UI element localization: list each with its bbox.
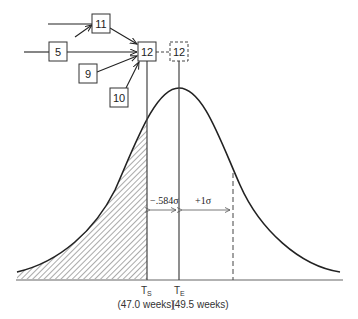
edge-10-to-12 — [126, 62, 139, 88]
shaded-probability-area — [17, 123, 147, 279]
node-12-label: 12 — [141, 46, 153, 58]
node-5: 5 — [49, 42, 67, 61]
te-value-label: (49.5 weeks) — [171, 299, 228, 310]
edge-9-to-12 — [97, 56, 137, 72]
node-12: 12 — [138, 42, 156, 61]
node-12-shifted-label: 12 — [173, 46, 185, 58]
edge-in-11-diag — [75, 25, 92, 37]
node-9-label: 9 — [85, 68, 91, 80]
edge-11-to-12 — [110, 28, 137, 44]
minus-sigma-label: −.584σ — [150, 195, 179, 206]
node-5-label: 5 — [55, 46, 61, 58]
ts-marker-label: TS — [141, 285, 152, 297]
node-9: 9 — [79, 64, 97, 83]
pert-normal-distribution-diagram: −.584σ +1σ 11 5 9 10 12 12 TS TE (47.0 w… — [0, 0, 358, 319]
ts-value-label: (47.0 weeks) — [117, 299, 174, 310]
node-10: 10 — [110, 88, 128, 107]
node-12-shifted: 12 — [170, 42, 188, 61]
node-11-label: 11 — [95, 18, 106, 30]
node-10-label: 10 — [113, 92, 125, 104]
te-marker-label: TE — [174, 285, 185, 297]
node-11: 11 — [92, 14, 110, 33]
plus-sigma-label: +1σ — [195, 195, 212, 206]
